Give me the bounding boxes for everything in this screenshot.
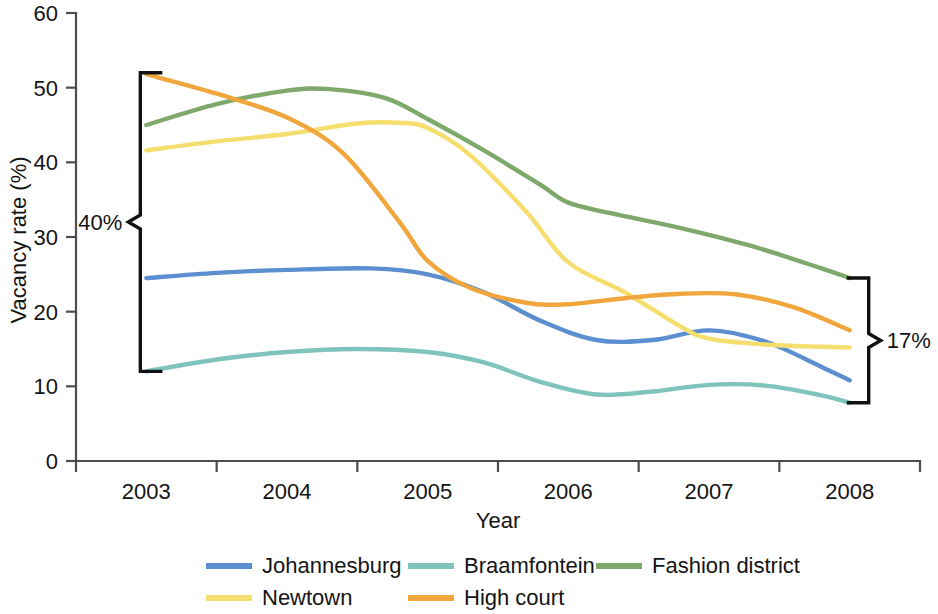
series-lines (146, 74, 849, 403)
chart-legend: JohannesburgBraamfonteinFashion district… (206, 553, 800, 610)
y-tick-label: 0 (46, 449, 58, 474)
x-tick-label: 2005 (403, 479, 452, 504)
x-tick-label: 2003 (122, 479, 171, 504)
chart-canvas: Vacancy rate (%) 0102030405060 200320042… (0, 0, 938, 614)
x-tick-label: 2004 (263, 479, 312, 504)
y-tick-label: 50 (34, 76, 58, 101)
right-bracket (847, 278, 881, 403)
x-tick-label: 2006 (544, 479, 593, 504)
series-line-braamfontein (146, 349, 849, 403)
y-axis-title: Vacancy rate (%) (6, 156, 31, 323)
x-tick-label: 2007 (685, 479, 734, 504)
legend-label-high-court: High court (464, 585, 564, 610)
y-axis-ticks: 0102030405060 (34, 1, 76, 474)
legend-label-fashion-district: Fashion district (652, 553, 800, 578)
series-line-newtown (146, 122, 849, 347)
y-tick-label: 40 (34, 150, 58, 175)
y-tick-label: 20 (34, 300, 58, 325)
vacancy-rate-chart: Vacancy rate (%) 0102030405060 200320042… (0, 0, 938, 614)
y-tick-label: 30 (34, 225, 58, 250)
right-bracket-label: 17% (887, 328, 931, 353)
series-line-johannesburg (146, 268, 849, 380)
bracket-annotations: 40%17% (78, 73, 930, 403)
x-axis-title: Year (476, 508, 520, 533)
x-tick-label: 2008 (825, 479, 874, 504)
x-axis-ticks: 200320042005200620072008 (76, 461, 920, 504)
legend-label-johannesburg: Johannesburg (262, 553, 401, 578)
series-line-high-court (146, 74, 849, 330)
left-bracket (128, 73, 162, 372)
y-tick-label: 10 (34, 374, 58, 399)
legend-label-newtown: Newtown (262, 585, 352, 610)
legend-label-braamfontein: Braamfontein (464, 553, 595, 578)
left-bracket-label: 40% (78, 210, 122, 235)
y-tick-label: 60 (34, 1, 58, 26)
